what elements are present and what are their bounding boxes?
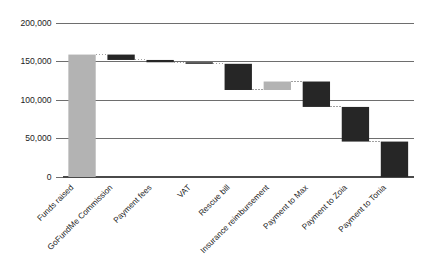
ytick-label: 0	[47, 172, 52, 182]
waterfall-bar	[68, 55, 95, 177]
category-label: Rescue bill	[197, 183, 232, 218]
ytick-label: 150,000	[20, 56, 51, 66]
category-label: Insurance reimbursement	[199, 183, 272, 256]
bars-group	[68, 55, 408, 177]
category-label: Funds raised	[36, 183, 76, 223]
category-label: VAT	[176, 183, 193, 200]
ytick-labels-group: 200,000150,000100,00050,0000	[20, 18, 51, 182]
waterfall-bar	[186, 62, 213, 64]
ytick-label: 200,000	[20, 18, 51, 28]
ytick-label: 100,000	[20, 95, 51, 105]
chart-canvas: 200,000150,000100,00050,0000 Funds raise…	[0, 0, 427, 279]
waterfall-bar	[303, 82, 330, 107]
ytick-label: 50,000	[25, 133, 52, 143]
category-label: GoFundMe Commission	[46, 183, 115, 252]
waterfall-bar	[381, 142, 408, 177]
waterfall-bar	[342, 107, 369, 142]
gridlines-group	[56, 23, 415, 177]
waterfall-chart: 200,000150,000100,00050,0000 Funds raise…	[0, 0, 427, 279]
waterfall-bar	[146, 60, 173, 62]
waterfall-bar	[264, 82, 291, 90]
waterfall-bar	[107, 55, 134, 60]
category-labels-group: Funds raisedGoFundMe CommissionPayment f…	[36, 183, 389, 256]
waterfall-bar	[225, 64, 252, 90]
category-label: Payment fees	[112, 183, 154, 225]
